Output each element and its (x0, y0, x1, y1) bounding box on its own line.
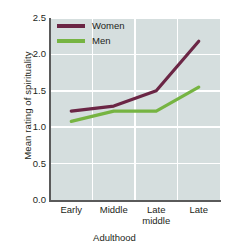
legend-label: Men (92, 36, 110, 46)
chart-legend: WomenMen (57, 20, 125, 47)
y-tick-label: 2.0 (6, 49, 46, 59)
legend-swatch-men (57, 39, 85, 43)
series-line-women (71, 41, 199, 111)
legend-item-men: Men (57, 35, 125, 47)
legend-swatch-women (57, 24, 85, 28)
legend-label: Women (92, 21, 125, 31)
y-tick-label: 1.5 (6, 86, 46, 96)
y-tick-label: 0.0 (6, 195, 46, 205)
y-tick-label: 2.5 (6, 13, 46, 23)
legend-item-women: Women (57, 20, 125, 32)
x-axis-title: Adulthood (0, 232, 229, 243)
x-axis-line (49, 200, 221, 202)
spirituality-line-chart: Mean rating of spirituality 0.00.51.01.5… (0, 0, 229, 250)
series-line-men (71, 87, 199, 121)
y-tick-label: 1.0 (6, 122, 46, 132)
y-tick-label: 0.5 (6, 159, 46, 169)
x-tick-label: Late (169, 205, 229, 216)
y-axis-line (49, 18, 51, 201)
